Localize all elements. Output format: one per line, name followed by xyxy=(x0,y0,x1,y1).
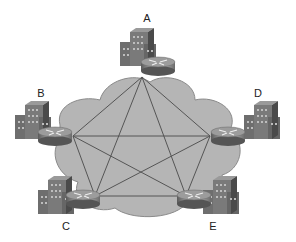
node-label-c: C xyxy=(62,220,70,232)
node-label-d: D xyxy=(254,87,262,99)
router-icon xyxy=(177,190,211,209)
router-icon xyxy=(66,190,100,209)
building-icon xyxy=(244,101,280,139)
router-icon xyxy=(211,127,245,146)
router-icon xyxy=(141,57,175,76)
node-label-a: A xyxy=(143,12,151,24)
node-label-b: B xyxy=(37,87,44,99)
router-icon xyxy=(38,127,72,146)
node-label-e: E xyxy=(209,220,216,232)
network-diagram: A B D C E xyxy=(0,0,296,242)
site-a: A xyxy=(120,12,175,76)
